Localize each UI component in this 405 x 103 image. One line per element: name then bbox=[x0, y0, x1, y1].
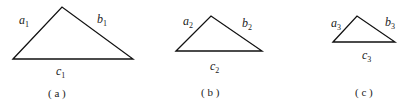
triangle-a: a1 b1 c1 ( a ) bbox=[13, 7, 133, 100]
side-c1-label: c1 bbox=[56, 64, 65, 80]
side-b3-label: b3 bbox=[385, 15, 395, 31]
caption-a: ( a ) bbox=[48, 87, 66, 100]
triangle-c: a3 b3 c3 ( c ) bbox=[331, 15, 395, 99]
side-c3-label: c3 bbox=[362, 48, 371, 64]
similar-triangles-diagram: a1 b1 c1 ( a ) a2 b2 c2 ( b ) a3 b3 c3 (… bbox=[0, 0, 405, 103]
caption-c: ( c ) bbox=[355, 86, 373, 99]
triangle-a-shape bbox=[13, 7, 133, 59]
side-a3-label: a3 bbox=[331, 16, 341, 32]
caption-b: ( b ) bbox=[201, 86, 220, 99]
side-b1-label: b1 bbox=[97, 12, 107, 28]
side-a2-label: a2 bbox=[183, 14, 193, 30]
side-a1-label: a1 bbox=[19, 13, 29, 29]
side-b2-label: b2 bbox=[242, 16, 252, 32]
triangle-b: a2 b2 c2 ( b ) bbox=[176, 14, 262, 99]
side-c2-label: c2 bbox=[210, 59, 219, 75]
